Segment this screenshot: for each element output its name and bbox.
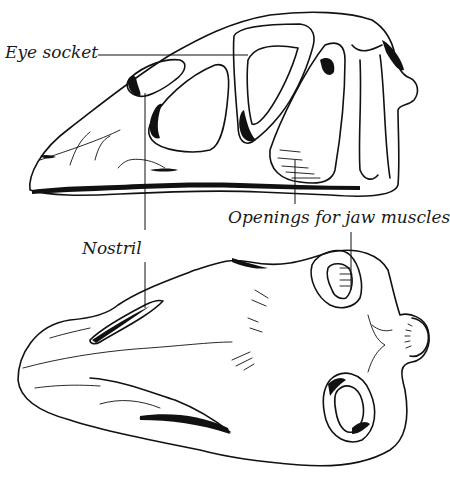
top-view-skull [18, 250, 429, 466]
eye-socket-label: Eye socket [5, 44, 98, 61]
side-view-skull [30, 12, 418, 196]
jaw-muscle-openings-label: Openings for jaw muscles [228, 209, 450, 226]
nostril-label: Nostril [82, 240, 142, 257]
